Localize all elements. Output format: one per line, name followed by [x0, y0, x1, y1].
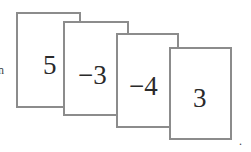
card-2-number: −3 [78, 62, 107, 89]
trailing-period: . [239, 134, 242, 149]
card-1-number: 5 [43, 52, 57, 79]
cropped-text-fragment: n [0, 63, 4, 78]
card-3-number: −4 [129, 73, 158, 100]
card-4: 3 [169, 47, 232, 140]
card-4-number: 3 [193, 85, 207, 112]
